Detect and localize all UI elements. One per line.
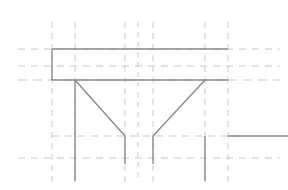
construction-lines-layer (18, 22, 280, 182)
geometry-line-right-diagonal (153, 80, 205, 136)
cad-drawing-viewport[interactable] (0, 0, 288, 190)
geometry-lines-layer (52, 49, 288, 181)
drawing-canvas[interactable] (0, 0, 288, 190)
geometry-line-left-diagonal (75, 80, 125, 136)
